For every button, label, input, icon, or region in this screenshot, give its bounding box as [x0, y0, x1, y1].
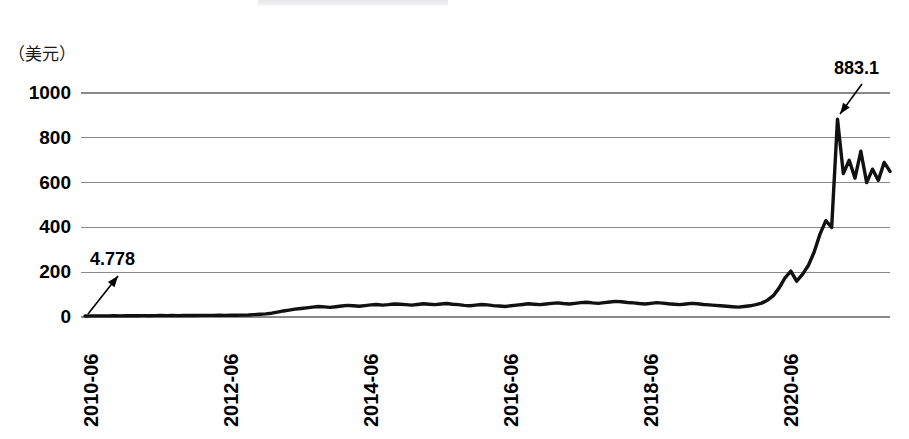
- annotation-peak-arrowhead: [840, 103, 850, 114]
- annotation-start-arrowhead: [108, 276, 118, 287]
- x-tick-label-2016-06: 2016-06: [500, 354, 522, 427]
- y-tick-label-0: 0: [60, 306, 71, 327]
- gridlines: [81, 93, 890, 317]
- x-axis-tick-labels: 2010-062012-062014-062016-062018-062020-…: [80, 354, 802, 427]
- x-tick-label-2020-06: 2020-06: [780, 354, 802, 427]
- chart-root: （美元） 02004006008001000 2010-062012-06201…: [0, 0, 909, 439]
- annotation-label-start: 4.778: [90, 249, 135, 269]
- x-tick-label-2018-06: 2018-06: [640, 354, 662, 427]
- y-tick-label-1000: 1000: [29, 82, 71, 103]
- x-tick-label-2014-06: 2014-06: [360, 354, 382, 427]
- data-series: [85, 119, 890, 316]
- y-tick-label-800: 800: [39, 127, 71, 148]
- annotations: 4.778883.1: [88, 58, 879, 314]
- y-tick-label-400: 400: [39, 216, 71, 237]
- series-line-price: [85, 119, 890, 316]
- x-tick-label-2012-06: 2012-06: [220, 354, 242, 427]
- y-tick-label-600: 600: [39, 172, 71, 193]
- chart-plot-area: 02004006008001000 2010-062012-062014-062…: [0, 0, 909, 439]
- y-axis-tick-labels: 02004006008001000: [29, 82, 71, 327]
- annotation-label-peak: 883.1: [834, 58, 879, 78]
- x-tick-label-2010-06: 2010-06: [80, 354, 102, 427]
- y-tick-label-200: 200: [39, 261, 71, 282]
